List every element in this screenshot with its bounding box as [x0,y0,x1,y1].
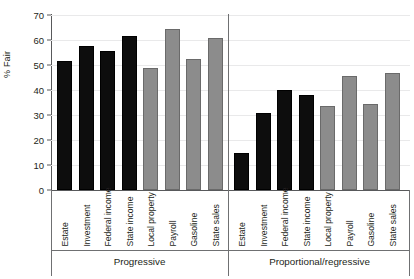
category-label-state-sales: State sales [389,204,398,247]
category-label-investment: Investment [260,205,269,247]
bar-proportional-regressive-investment[interactable] [256,113,271,191]
category-label-gasoline: Gasoline [190,213,199,247]
category-label-state-income: State income [303,197,312,247]
bar-proportional-regressive-federal-income[interactable] [277,90,292,190]
y-tick-mark-50 [47,65,51,66]
category-label-payroll: Payroll [346,221,355,247]
y-tick-mark-20 [47,140,51,141]
y-tick-mark-10 [47,165,51,166]
bar-proportional-regressive-gasoline[interactable] [363,104,378,190]
category-label-estate: Estate [238,223,247,247]
category-label-gasoline: Gasoline [367,213,376,247]
category-label-federal-income: Federal income [281,188,290,247]
y-axis-title: % Fair [2,51,12,78]
category-label-estate: Estate [61,223,70,247]
y-tick-label-50: 50 [33,60,44,71]
bar-proportional-regressive-local-property[interactable] [320,106,335,190]
y-tick-label-10: 10 [33,160,44,171]
y-tick-label-70: 70 [33,10,44,21]
y-tick-label-40: 40 [33,85,44,96]
y-tick-label-60: 60 [33,35,44,46]
y-tick-label-0: 0 [39,185,44,196]
group-label-progressive: Progressive [51,256,228,267]
category-label-state-income: State income [126,197,135,247]
category-label-local-property: Local property [324,193,333,247]
category-label-box: EstateInvestmentFederal incomeState inco… [51,190,410,251]
category-label-federal-income: Federal income [104,188,113,247]
group-label-proportional-regressive: Proportional/regressive [229,256,410,267]
y-tick-mark-60 [47,40,51,41]
bar-group-proportional-regressive [51,15,410,190]
y-tick-mark-0 [47,190,51,191]
category-label-local-property: Local property [147,193,156,247]
plot-area [51,15,410,190]
y-tick-label-20: 20 [33,135,44,146]
category-label-state-sales: State sales [212,204,221,247]
category-label-investment: Investment [83,205,92,247]
bar-chart: % Fair 010203040506070 EstateInvestmentF… [0,0,414,279]
y-tick-label-30: 30 [33,110,44,121]
bar-proportional-regressive-state-sales[interactable] [385,73,400,191]
y-tick-mark-70 [47,15,51,16]
y-tick-mark-40 [47,90,51,91]
bar-proportional-regressive-state-income[interactable] [299,95,314,190]
y-axis-tick-labels: 010203040506070 [14,0,44,279]
y-tick-mark-30 [47,115,51,116]
category-label-payroll: Payroll [169,221,178,247]
bar-proportional-regressive-payroll[interactable] [342,76,357,190]
bar-proportional-regressive-estate[interactable] [234,153,249,191]
